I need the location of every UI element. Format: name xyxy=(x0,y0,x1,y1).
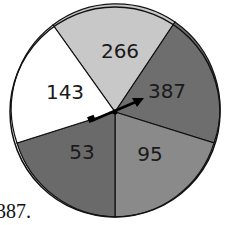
sector-label-266: 266 xyxy=(101,39,139,63)
caption-text: 387. xyxy=(0,200,31,223)
spinner-diagram: 266 387 95 53 143 xyxy=(0,0,226,225)
sector-label-143: 143 xyxy=(46,80,84,104)
sector-label-387: 387 xyxy=(148,79,186,103)
sector-label-95: 95 xyxy=(137,142,162,166)
sector-label-53: 53 xyxy=(69,140,94,164)
